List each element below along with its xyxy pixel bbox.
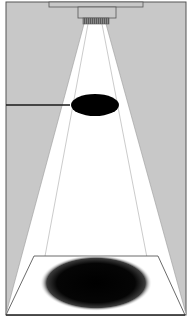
cast-shadow	[40, 255, 152, 311]
opaque-disk	[71, 94, 119, 116]
lamp-mount-bar	[49, 2, 143, 7]
shadow-projection-diagram	[0, 0, 191, 317]
diagram-canvas	[0, 0, 191, 317]
lamp-housing	[78, 7, 116, 18]
lamp-lens-icon	[83, 18, 109, 24]
